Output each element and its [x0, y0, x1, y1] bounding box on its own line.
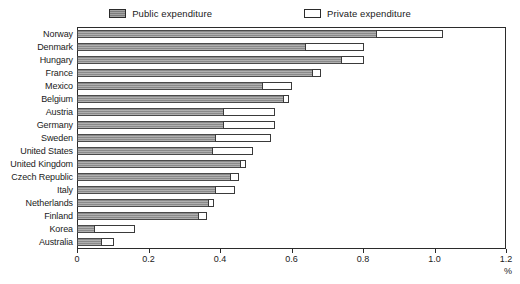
bar-segment-private — [312, 69, 321, 77]
category-label: United Kingdom — [10, 158, 73, 170]
category-label: United States — [20, 145, 73, 157]
bar-segment-private — [101, 238, 114, 246]
bar-segment-private — [215, 186, 235, 194]
bar-segment-public — [77, 43, 306, 51]
bar-segment-private — [208, 199, 214, 207]
public-swatch-icon — [109, 9, 126, 18]
bar-row — [77, 225, 506, 233]
bar-segment-public — [77, 95, 284, 103]
x-tick — [363, 249, 364, 253]
bar-segment-public — [77, 147, 213, 155]
bar-segment-public — [77, 30, 377, 38]
x-tick-label: 1.0 — [428, 254, 441, 264]
bar-segment-public — [77, 134, 216, 142]
x-tick-label: 0.2 — [142, 254, 155, 264]
bar-segment-public — [77, 69, 313, 77]
category-label: Netherlands — [26, 197, 73, 209]
bar-segment-public — [77, 212, 199, 220]
category-label: Denmark — [37, 41, 73, 53]
chart-legend: Public expenditure Private expenditure — [0, 8, 520, 19]
category-label: Belgium — [41, 93, 73, 105]
bar-row — [77, 147, 506, 155]
x-tick — [506, 249, 507, 253]
bar-row — [77, 173, 506, 181]
bar-segment-public — [77, 173, 231, 181]
bar-segment-private — [212, 147, 253, 155]
bar-segment-private — [215, 134, 271, 142]
legend-item-public: Public expenditure — [109, 8, 212, 19]
bar-segment-private — [223, 121, 275, 129]
bar-segment-private — [305, 43, 364, 51]
bar-segment-private — [94, 225, 135, 233]
category-label: Finland — [44, 210, 73, 222]
x-tick — [292, 249, 293, 253]
bar-segment-private — [283, 95, 289, 103]
bar-row — [77, 186, 506, 194]
legend-label-public: Public expenditure — [132, 8, 212, 19]
x-tick-label: 0.8 — [357, 254, 370, 264]
bar-row — [77, 30, 506, 38]
x-tick-label: 0.6 — [285, 254, 298, 264]
bar-segment-private — [262, 82, 293, 90]
bar-row — [77, 108, 506, 116]
bar-segment-public — [77, 199, 209, 207]
bar-row — [77, 160, 506, 168]
bar-segment-private — [341, 56, 364, 64]
x-axis-unit-label: % — [504, 266, 512, 276]
bar-segment-public — [77, 108, 224, 116]
legend-label-private: Private expenditure — [327, 8, 411, 19]
category-label: Germany — [37, 119, 73, 131]
category-label: Australia — [39, 236, 73, 248]
category-label: France — [46, 67, 73, 79]
x-tick — [220, 249, 221, 253]
category-label: Czech Republic — [11, 171, 73, 183]
bar-row — [77, 56, 506, 64]
bar-row — [77, 199, 506, 207]
x-axis-tick-labels: 00.20.40.60.81.01.2 — [0, 254, 520, 266]
stacked-bar-chart: Public expenditure Private expenditure N… — [0, 0, 520, 284]
bar-segment-public — [77, 186, 216, 194]
bar-segment-private — [240, 160, 246, 168]
bar-row — [77, 43, 506, 51]
category-label: Mexico — [45, 80, 73, 92]
bar-row — [77, 82, 506, 90]
x-tick-label: 1.2 — [500, 254, 513, 264]
bar-segment-private — [230, 173, 239, 181]
x-tick — [435, 249, 436, 253]
category-label: Sweden — [41, 132, 73, 144]
bar-segment-private — [223, 108, 275, 116]
bar-segment-public — [77, 238, 102, 246]
category-label: Austria — [46, 106, 73, 118]
bar-row — [77, 95, 506, 103]
bar-row — [77, 212, 506, 220]
bar-row — [77, 69, 506, 77]
bar-segment-public — [77, 121, 224, 129]
bar-segment-public — [77, 160, 241, 168]
category-label: Hungary — [40, 54, 73, 66]
bars-container — [77, 27, 506, 249]
private-swatch-icon — [304, 9, 321, 18]
bar-segment-public — [77, 82, 263, 90]
bar-segment-public — [77, 225, 95, 233]
bar-segment-private — [376, 30, 442, 38]
x-tick — [77, 249, 78, 253]
bar-segment-public — [77, 56, 342, 64]
bar-row — [77, 238, 506, 246]
x-tick-label: 0 — [74, 254, 79, 264]
x-tick — [149, 249, 150, 253]
bar-row — [77, 134, 506, 142]
category-label: Korea — [49, 223, 73, 235]
bar-segment-private — [198, 212, 207, 220]
category-label: Norway — [43, 28, 73, 40]
category-axis-labels: NorwayDenmarkHungaryFranceMexicoBelgiumA… — [0, 27, 73, 249]
category-label: Italy — [57, 184, 73, 196]
bar-row — [77, 121, 506, 129]
legend-item-private: Private expenditure — [304, 8, 411, 19]
x-tick-label: 0.4 — [214, 254, 227, 264]
